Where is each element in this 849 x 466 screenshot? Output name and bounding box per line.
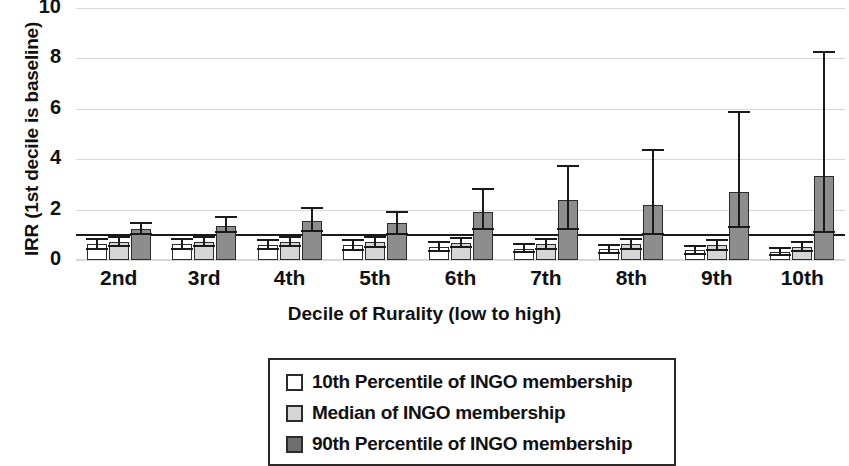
bar-group [514,8,578,260]
error-bar-cap-lower [215,231,237,233]
error-bar-cap-upper [620,238,642,240]
error-bar-cap-upper [472,188,494,190]
error-bar-line [482,189,484,228]
y-axis-tick-label: 8 [1,45,61,68]
x-axis-tick-label: 7th [530,266,562,290]
error-bar-cap-lower [728,226,750,228]
error-bar-cap-upper [342,239,364,241]
error-bar-cap-lower [86,248,108,250]
x-axis-tick-label: 4th [274,266,306,290]
error-bar-cap-upper [535,238,557,240]
legend-swatch-dark-gray-icon [286,436,303,453]
error-bar-cap-upper [642,149,664,151]
error-bar-cap-upper [301,207,323,209]
error-bar-cap-lower [706,249,728,251]
x-axis-tick-label: 8th [616,266,648,290]
chart-legend: 10th Percentile of INGO membershipMedian… [268,358,676,466]
error-bar-cap-upper [386,211,408,213]
error-bar-cap-upper [557,165,579,167]
error-bar-cap-lower [171,248,193,250]
error-bar-cap-lower [557,228,579,230]
bar-group [87,8,151,260]
plot-area: 0246810 [76,8,845,260]
x-axis-tick-label: 2nd [100,266,137,290]
error-bar-line [823,52,825,232]
legend-item-label: 10th Percentile of INGO membership [312,371,632,393]
legend-item-label: Median of INGO membership [312,402,565,424]
gridline [76,260,845,261]
error-bar-cap-lower [684,253,706,255]
error-bar-cap-lower [301,230,323,232]
legend-swatch-light-gray-icon [286,405,303,422]
y-axis-title: IRR (1st decile is baseline) [21,0,43,279]
error-bar-line [396,212,398,234]
error-bar-cap-upper [130,222,152,224]
x-axis-tick-label: 6th [445,266,477,290]
error-bar-cap-upper [813,51,835,53]
error-bar-cap-upper [684,245,706,247]
y-axis-tick-label: 0 [1,247,61,270]
error-bar-cap-upper [171,238,193,240]
error-bar-cap-lower [257,248,279,250]
bar-group [685,8,749,260]
error-bar-cap-lower [130,233,152,235]
x-axis-tick-label: 5th [359,266,391,290]
error-bar-cap-lower [364,246,386,248]
error-bar-cap-lower [642,233,664,235]
x-axis-tick-label: 10th [781,266,824,290]
error-bar-cap-upper [598,244,620,246]
error-bar-cap-lower [598,252,620,254]
error-bar-cap-lower [342,249,364,251]
x-axis-title: Decile of Rurality (low to high) [0,303,849,325]
legend-item: 10th Percentile of INGO membership [286,367,674,397]
error-bar-cap-lower [813,231,835,233]
error-bar-cap-lower [513,251,535,253]
error-bar-line [225,217,227,233]
error-bar-cap-upper [279,236,301,238]
error-bar-cap-lower [535,248,557,250]
error-bar-cap-lower [769,254,791,256]
bar-group [172,8,236,260]
error-bar-cap-upper [364,236,386,238]
error-bar-cap-upper [257,239,279,241]
error-bar-cap-upper [215,216,237,218]
bar-group [343,8,407,260]
error-bar-cap-lower [450,246,472,248]
x-axis-tick-label: 9th [701,266,733,290]
error-bar-line [567,166,569,228]
error-bar-cap-lower [428,250,450,252]
error-bar-cap-upper [769,247,791,249]
error-bar-cap-lower [386,233,408,235]
y-axis-tick-label: 2 [1,197,61,220]
bar-group [258,8,322,260]
error-bar-cap-lower [791,250,813,252]
bar-group [599,8,663,260]
error-bar-cap-lower [193,245,215,247]
error-bar-cap-upper [706,239,728,241]
y-axis-tick-label: 10 [1,0,61,18]
error-bar-cap-upper [428,241,450,243]
error-bar-cap-upper [513,243,535,245]
error-bar-cap-upper [728,111,750,113]
error-bar-cap-upper [193,236,215,238]
error-bar-cap-lower [472,228,494,230]
legend-item-label: 90th Percentile of INGO membership [312,433,632,455]
error-bar-cap-lower [108,245,130,247]
bar-group [429,8,493,260]
chart-figure: IRR (1st decile is baseline) 0246810 2nd… [0,0,849,466]
legend-item: Median of INGO membership [286,398,674,428]
error-bar-cap-upper [791,241,813,243]
error-bar-cap-lower [620,248,642,250]
legend-item: 90th Percentile of INGO membership [286,429,674,459]
y-axis-tick-label: 6 [1,96,61,119]
error-bar-line [311,208,313,231]
x-axis-tick-label: 3rd [188,266,221,290]
error-bar-cap-upper [86,238,108,240]
error-bar-line [652,150,654,234]
error-bar-line [738,112,740,227]
legend-swatch-white-icon [286,374,303,391]
error-bar-cap-upper [108,236,130,238]
y-axis-tick-label: 4 [1,146,61,169]
error-bar-cap-lower [279,245,301,247]
bar-group [770,8,834,260]
